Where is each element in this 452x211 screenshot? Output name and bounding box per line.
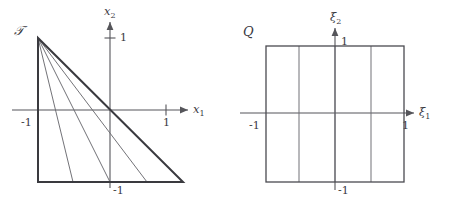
x1-axis-arrowhead bbox=[180, 107, 188, 114]
figure-canvas: 𝒯 x2 1 x1 1 -1 -1 𝑄 ξ2 1 ξ1 1 -1 -1 bbox=[0, 0, 452, 211]
x1-tick-label-one: 1 bbox=[163, 117, 170, 128]
xi2-tick-label-negative-one: -1 bbox=[338, 185, 349, 196]
triangle-panel-group bbox=[12, 22, 188, 188]
x2-tick-label-one: 1 bbox=[120, 32, 127, 43]
xi1-axis-label-sub: 1 bbox=[425, 112, 430, 121]
xi1-axis-arrowhead bbox=[406, 110, 414, 117]
x2-tick-label-negative-one: -1 bbox=[113, 185, 124, 196]
xi1-axis-label: ξ1 bbox=[419, 107, 430, 121]
xi2-axis-arrowhead bbox=[332, 28, 339, 36]
x1-tick-label-negative-one: -1 bbox=[21, 117, 32, 128]
xi2-axis-label-sub: 2 bbox=[336, 17, 341, 26]
xi1-tick-label-negative-one: -1 bbox=[249, 120, 260, 131]
figure-svg bbox=[0, 0, 452, 211]
triangle-domain-label: 𝒯 bbox=[14, 24, 24, 37]
x2-axis-arrowhead bbox=[107, 22, 114, 30]
square-panel-group bbox=[240, 28, 414, 190]
xi1-tick-label-one: 1 bbox=[402, 120, 409, 131]
x1-axis-label-sub: 1 bbox=[200, 109, 205, 118]
x1-axis-label: x1 bbox=[193, 104, 205, 118]
x2-axis-label: x2 bbox=[104, 6, 116, 20]
xi2-axis-label: ξ2 bbox=[330, 12, 341, 26]
xi2-tick-label-one: 1 bbox=[341, 36, 348, 47]
square-domain-label: 𝑄 bbox=[243, 25, 254, 38]
x2-axis-label-sub: 2 bbox=[111, 11, 116, 20]
